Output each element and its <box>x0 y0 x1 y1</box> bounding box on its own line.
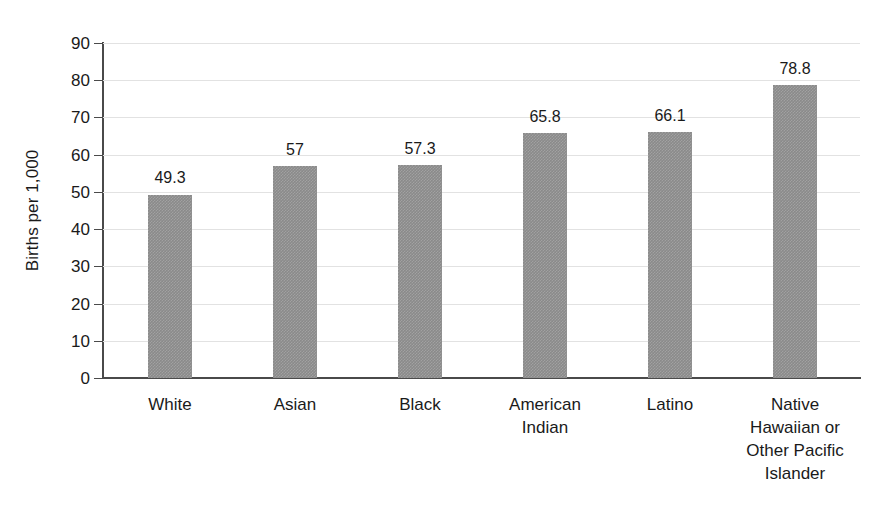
y-tick-label: 20 <box>50 296 90 313</box>
gridline <box>103 341 860 342</box>
x-axis-category-label: White <box>108 393 232 416</box>
bar-value-label: 49.3 <box>125 170 215 186</box>
bar-value-label: 65.8 <box>500 109 590 125</box>
bar <box>398 165 442 378</box>
y-tick-label: 60 <box>50 147 90 164</box>
y-tick-label: 40 <box>50 221 90 238</box>
gridline <box>103 155 860 156</box>
category-label-line: Other Pacific <box>746 441 843 460</box>
y-axis-title: Births per 1,000 <box>20 43 46 378</box>
gridline <box>103 43 860 44</box>
category-label-line: Native <box>771 395 819 414</box>
y-tick-mark <box>94 192 103 193</box>
x-axis-category-label: AmericanIndian <box>483 393 607 439</box>
y-tick-mark <box>94 229 103 230</box>
y-tick-label: 30 <box>50 258 90 275</box>
y-tick-label: 70 <box>50 109 90 126</box>
category-label-line: Indian <box>522 418 568 437</box>
bar-value-label: 66.1 <box>625 108 715 124</box>
x-axis-category-label: Asian <box>233 393 357 416</box>
bar-value-label: 57 <box>250 142 340 158</box>
y-tick-mark <box>94 378 103 379</box>
bar <box>273 166 317 378</box>
y-tick-label: 90 <box>50 35 90 52</box>
y-tick-label: 80 <box>50 72 90 89</box>
x-axis-category-label: NativeHawaiian orOther PacificIslander <box>733 393 857 485</box>
category-label-line: Hawaiian or <box>750 418 840 437</box>
category-label-line: Latino <box>647 395 693 414</box>
y-tick-mark <box>94 43 103 44</box>
y-tick-mark <box>94 304 103 305</box>
bar-chart: Births per 1,000 0102030405060708090 49.… <box>0 0 893 508</box>
gridline <box>103 229 860 230</box>
gridline <box>103 266 860 267</box>
y-tick-label: 50 <box>50 184 90 201</box>
bar <box>523 133 567 378</box>
y-tick-mark <box>94 155 103 156</box>
gridline <box>103 304 860 305</box>
x-axis-category-label: Black <box>358 393 482 416</box>
category-label-line: White <box>148 395 191 414</box>
y-tick-label: 0 <box>50 370 90 387</box>
bar <box>148 195 192 379</box>
bar <box>648 132 692 378</box>
bar <box>773 85 817 378</box>
gridline <box>103 192 860 193</box>
bar-value-label: 57.3 <box>375 141 465 157</box>
x-axis-category-label: Latino <box>608 393 732 416</box>
plot-area <box>103 43 860 378</box>
y-tick-label: 10 <box>50 333 90 350</box>
category-label-line: Black <box>399 395 441 414</box>
bar-value-label: 78.8 <box>750 61 840 77</box>
y-tick-mark <box>94 341 103 342</box>
category-label-line: American <box>509 395 581 414</box>
gridline <box>103 80 860 81</box>
y-tick-mark <box>94 266 103 267</box>
category-label-line: Asian <box>274 395 317 414</box>
gridline <box>103 117 860 118</box>
y-tick-mark <box>94 80 103 81</box>
category-label-line: Islander <box>765 464 825 483</box>
y-tick-mark <box>94 117 103 118</box>
